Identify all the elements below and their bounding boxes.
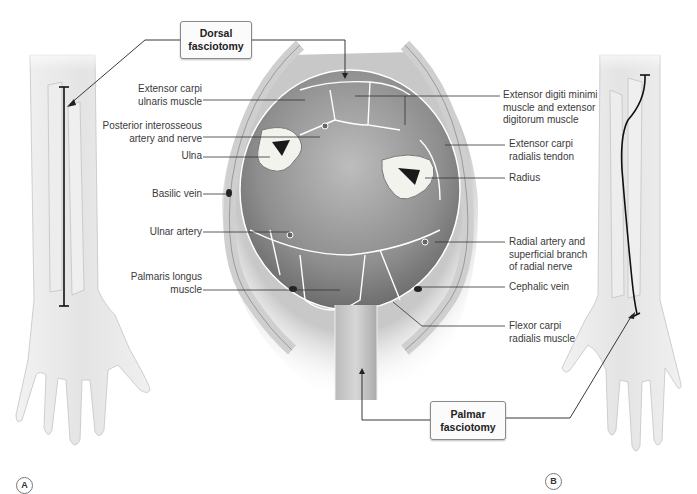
label-ulnar-artery: Ulnar artery [150,226,202,239]
label-palmaris-longus: Palmaris longus muscle [131,271,202,296]
label-posterior-interosseous: Posterior interosseous artery and nerve [103,120,203,145]
label-basilic-vein: Basilic vein [152,188,202,201]
dorsal-forearm-illustration [16,45,150,445]
forearm-compartment-illustration [0,0,697,494]
label-ulna: Ulna [181,150,202,163]
palmar-fasciotomy-callout: Palmar fasciotomy [430,401,506,440]
panel-letter-b: B [545,473,562,490]
label-extensor-carpi-ulnaris: Extensor carpi ulnaris muscle [138,83,202,108]
label-radius: Radius [509,172,540,185]
panel-letter-a: A [16,477,33,494]
label-cephalic-vein: Cephalic vein [509,281,569,294]
cross-section-illustration [222,45,478,400]
label-flexor-carpi-radialis: Flexor carpi radialis muscle [509,320,575,345]
dorsal-fasciotomy-callout: Dorsal fasciotomy [180,21,252,59]
label-extensor-carpi-radialis: Extensor carpi radialis tendon [509,138,574,163]
label-extensor-digiti-minimi: Extensor digiti minimi muscle and extens… [503,89,597,127]
label-radial-artery: Radial artery and superficial branch of … [509,236,587,274]
